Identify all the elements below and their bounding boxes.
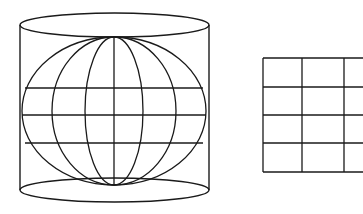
globe [22, 37, 206, 185]
cylinder-top-ellipse [20, 13, 209, 37]
unrolled-grid [263, 58, 363, 172]
projection-diagram [0, 0, 363, 214]
